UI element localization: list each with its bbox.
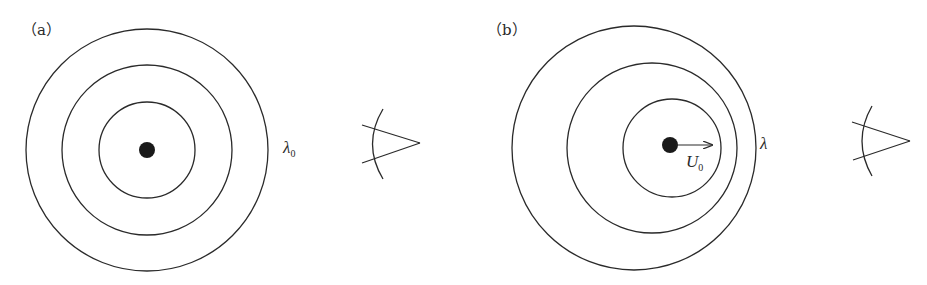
panel-b-label: （b） <box>487 18 527 39</box>
panel-a-stationary-source <box>26 29 420 271</box>
panel-a-label: （a） <box>22 18 61 39</box>
diagram-canvas <box>0 0 927 285</box>
observer-arc <box>862 106 872 176</box>
wavelength-lambda0-label: λ0 <box>283 138 295 159</box>
wavefront-circle-3 <box>512 26 756 270</box>
panel-b-moving-source <box>512 26 910 270</box>
wavelength-lambda-label: λ <box>760 134 767 154</box>
observer-ear-icon <box>852 106 910 176</box>
observer-ear-icon <box>362 109 420 179</box>
wavefront-circle-2 <box>567 63 737 233</box>
lambda-subscript: 0 <box>290 148 295 159</box>
sound-source-dot <box>662 137 678 153</box>
doppler-diagram: （a） λ0 （b） λ U0 <box>0 0 927 285</box>
observer-line-lower <box>362 143 420 163</box>
velocity-symbol: U <box>686 152 698 171</box>
observer-line-upper <box>362 125 420 143</box>
velocity-u0-label: U0 <box>686 152 703 173</box>
sound-source-dot <box>139 142 155 158</box>
velocity-subscript: 0 <box>698 162 703 173</box>
observer-line-upper <box>852 122 910 141</box>
observer-arc <box>373 109 384 179</box>
